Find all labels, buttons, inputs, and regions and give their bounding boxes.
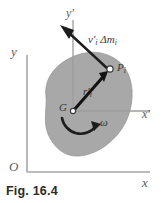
- angular-velocity-label: ω: [100, 117, 108, 128]
- momentum-subscript: i: [95, 38, 97, 47]
- particle-symbol: P: [117, 61, 124, 73]
- position-subscript: i: [90, 90, 92, 99]
- momentum-delta-mass: Δm: [100, 33, 114, 45]
- centroidal-y-prime-mark: ′: [71, 6, 74, 20]
- momentum-delta-subscript: i: [115, 38, 117, 47]
- centroidal-x-axis-label: x′: [142, 108, 150, 120]
- figure-caption: Fig. 16.4: [6, 184, 58, 198]
- particle-point-label: Pi: [117, 62, 126, 75]
- center-of-mass-marker: [70, 108, 75, 113]
- diagram-canvas: [0, 0, 161, 203]
- fixed-x-axis-label: x: [142, 176, 148, 189]
- position-vector-label: r′i: [83, 86, 92, 99]
- particle-point-marker: [107, 66, 113, 72]
- centroidal-x-prime-mark: ′: [147, 107, 150, 121]
- center-of-mass-label: G: [59, 102, 67, 113]
- centroidal-y-axis-label: y′: [66, 7, 74, 19]
- fixed-y-axis-label: y: [11, 45, 17, 58]
- figure-container: y x O y′ x′ v′i Δmi G r′i Pi ω Fig. 16.4: [0, 0, 161, 203]
- origin-label: O: [9, 160, 18, 173]
- particle-subscript: i: [124, 66, 126, 75]
- momentum-vector-label: v′i Δmi: [88, 34, 117, 47]
